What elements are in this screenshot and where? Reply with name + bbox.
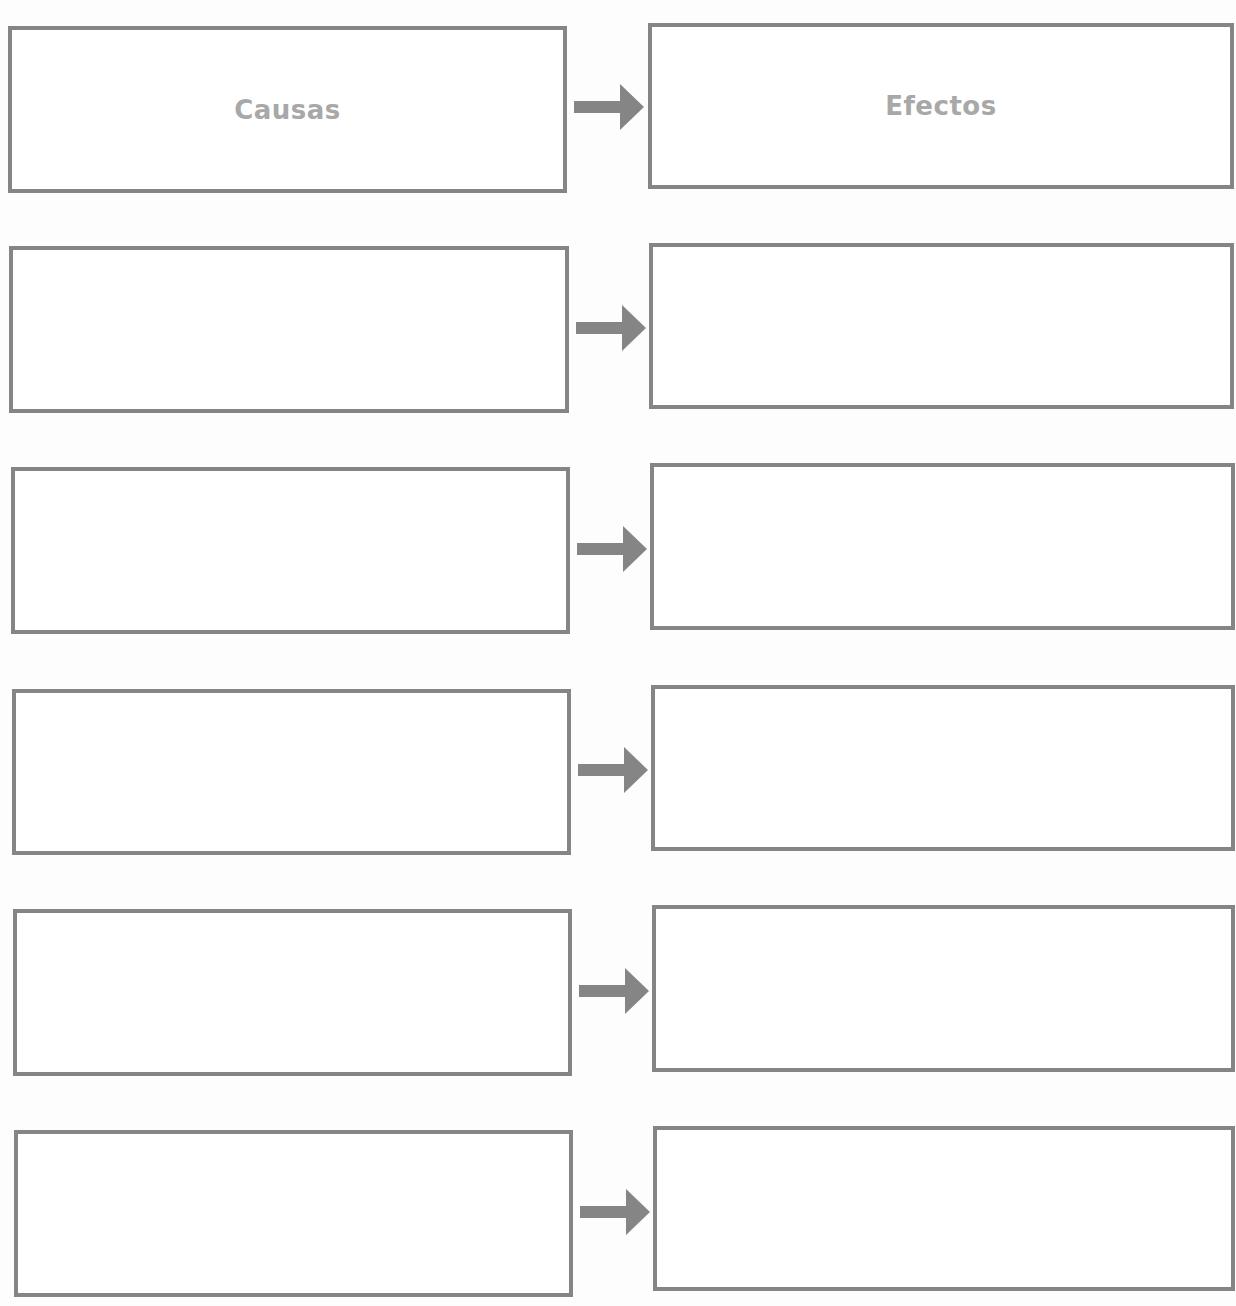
arrow-right-icon — [578, 747, 648, 793]
effect-box-3[interactable] — [650, 463, 1235, 630]
arrow-right-icon — [577, 526, 647, 572]
cause-box-3[interactable] — [11, 467, 570, 634]
effect-box-2[interactable] — [649, 243, 1234, 409]
cause-box-6[interactable] — [14, 1130, 573, 1297]
cause-box-4[interactable] — [12, 689, 571, 855]
arrow-right-icon — [576, 305, 646, 351]
effect-box-6[interactable] — [653, 1126, 1235, 1291]
effect-box-5[interactable] — [652, 905, 1235, 1072]
cause-box-5[interactable] — [13, 909, 572, 1076]
effect-box-1[interactable]: Efectos — [648, 23, 1234, 189]
cause-box-1[interactable]: Causas — [8, 26, 567, 193]
cause-header-label: Causas — [234, 95, 341, 125]
arrow-right-icon — [580, 1189, 650, 1235]
arrow-right-icon — [574, 84, 644, 130]
arrow-right-icon — [579, 968, 649, 1014]
effect-header-label: Efectos — [885, 91, 996, 121]
effect-box-4[interactable] — [651, 685, 1235, 851]
cause-box-2[interactable] — [9, 246, 569, 413]
